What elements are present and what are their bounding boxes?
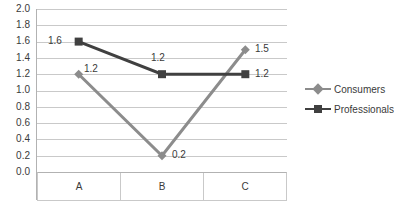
- category-axis: A B C: [37, 172, 287, 201]
- professionals-marker-a: [75, 38, 83, 46]
- professionals-marker-b: [158, 70, 166, 78]
- data-label-consumers-b: 0.2: [172, 150, 186, 160]
- legend-entry-professionals[interactable]: Professionals: [305, 99, 394, 119]
- legend-label-consumers: Consumers: [334, 84, 385, 95]
- data-label-professionals-c: 1.2: [255, 69, 269, 79]
- data-label-consumers-c: 1.5: [255, 44, 269, 54]
- square-marker-icon: [314, 105, 322, 113]
- category-cell-c: C: [204, 173, 286, 200]
- data-label-professionals-a: 1.6: [48, 36, 62, 46]
- data-label-consumers-a: 1.2: [84, 64, 98, 74]
- consumers-line: [79, 50, 246, 156]
- legend-entry-consumers[interactable]: Consumers: [305, 79, 394, 99]
- legend-key-professionals: [305, 103, 331, 115]
- category-cell-a: A: [38, 173, 121, 200]
- legend-key-consumers: [305, 83, 331, 95]
- legend-label-professionals: Professionals: [334, 104, 394, 115]
- data-label-professionals-b: 1.2: [151, 53, 165, 63]
- line-chart: 2.0 1.8 1.6 1.4 1.2 1.0 0.8 0.6 0.4 0.2 …: [0, 0, 394, 209]
- category-cell-b: B: [121, 173, 204, 200]
- professionals-marker-c: [241, 70, 249, 78]
- diamond-marker-icon: [312, 83, 323, 94]
- legend: Consumers Professionals: [305, 79, 394, 119]
